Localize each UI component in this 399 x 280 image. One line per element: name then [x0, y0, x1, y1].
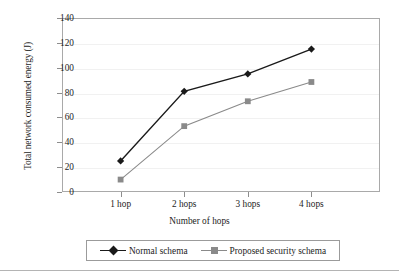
y-tick-label: 0 [34, 187, 74, 197]
chart-legend: Normal schemaProposed security schema [86, 240, 340, 261]
y-tick-mark [57, 142, 62, 143]
y-tick-label: 60 [34, 112, 74, 122]
y-tick-label: 80 [34, 88, 74, 98]
x-tick-mark [248, 192, 249, 197]
x-tick-mark [184, 192, 185, 197]
gridline [63, 143, 379, 144]
y-axis-title: Total network consumed energy (J) [23, 16, 33, 196]
bottom-divider [0, 270, 399, 271]
y-tick-label: 140 [34, 13, 74, 23]
y-tick-label: 120 [34, 38, 74, 48]
y-tick-mark [57, 18, 62, 19]
legend-entry: Normal schema [100, 246, 188, 256]
x-tick-mark [311, 192, 312, 197]
y-tick-label: 40 [34, 137, 74, 147]
gridline [63, 94, 379, 95]
y-tick-label: 100 [34, 63, 74, 73]
legend-entry: Proposed security schema [201, 246, 327, 256]
gridline [63, 168, 379, 169]
gridline [63, 44, 379, 45]
y-tick-mark [57, 43, 62, 44]
y-tick-mark [57, 167, 62, 168]
legend-label: Proposed security schema [230, 246, 327, 256]
x-tick-label: 4 hops [271, 199, 351, 209]
gridline [63, 118, 379, 119]
chart-figure: Total network consumed energy (J) 020406… [0, 0, 399, 280]
legend-label: Normal schema [129, 246, 188, 256]
legend-square-icon [201, 246, 227, 256]
gridline [63, 69, 379, 70]
y-tick-mark [57, 192, 62, 193]
x-axis-title: Number of hops [0, 216, 399, 226]
y-tick-mark [57, 117, 62, 118]
legend-diamond-icon [100, 246, 126, 256]
y-tick-mark [57, 68, 62, 69]
y-tick-mark [57, 93, 62, 94]
plot-area [62, 18, 380, 192]
y-tick-label: 20 [34, 162, 74, 172]
x-tick-mark [121, 192, 122, 197]
